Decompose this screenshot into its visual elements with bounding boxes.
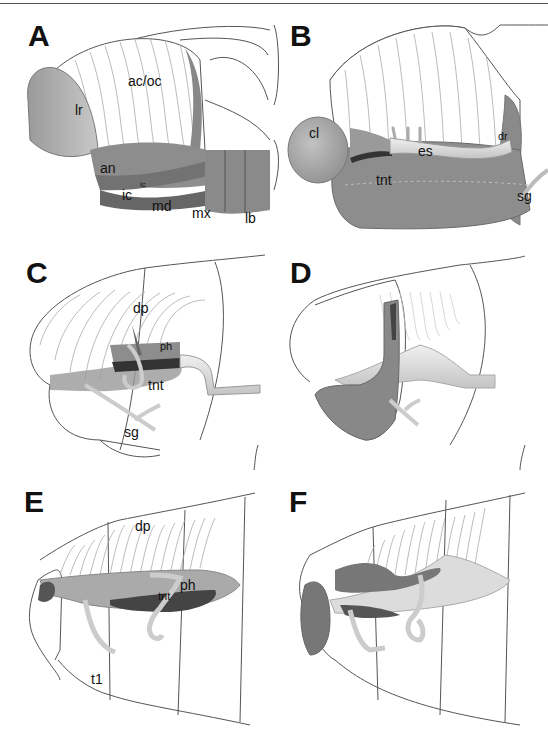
label-lr: lr (75, 102, 83, 118)
label-sg-b: sg (517, 188, 532, 204)
panel-label-d: D (290, 256, 312, 289)
figure-canvas: A ac/oc lr an ic ic md mx lb B (0, 0, 548, 746)
panel-f: F (289, 485, 525, 725)
panel-e: E dp ph tnt t1 (24, 485, 255, 725)
panel-d: D (290, 256, 525, 470)
label-cl: cl (309, 125, 319, 141)
panel-a: A ac/oc lr an ic ic md mx lb (28, 19, 270, 226)
label-dp-e: dp (135, 518, 151, 534)
label-mx: mx (192, 205, 211, 221)
label-tnt-e: tnt (158, 590, 170, 602)
panel-label-c: C (26, 256, 48, 289)
label-tnt: tnt (376, 172, 392, 188)
label-dr: dr (498, 130, 508, 142)
label-tnt-c: tnt (148, 377, 164, 393)
label-dp-c: dp (133, 300, 149, 316)
label-an: an (100, 160, 116, 176)
label-md: md (152, 198, 171, 214)
label-t1: t1 (91, 671, 103, 687)
label-ph-c: ph (160, 340, 172, 352)
label-es: es (418, 143, 433, 159)
panel-label-f: F (289, 485, 307, 518)
label-lb: lb (245, 210, 256, 226)
label-ic-small: ic (140, 180, 146, 189)
label-ic: ic (122, 187, 132, 203)
panel-label-a: A (28, 19, 50, 52)
panel-b: B cl es dr tnt sg (274, 19, 548, 229)
label-ph-e: ph (180, 577, 196, 593)
panel-label-b: B (290, 19, 312, 52)
label-ac-oc: ac/oc (128, 73, 161, 89)
panel-label-e: E (24, 485, 44, 518)
label-sg-c: sg (124, 424, 139, 440)
panel-c: C dp ph tnt sg (26, 255, 265, 470)
